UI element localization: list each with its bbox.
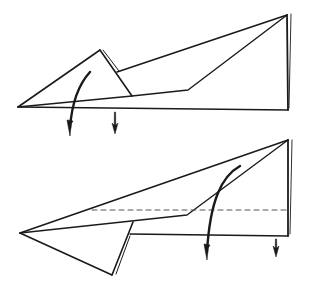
bottom-edge <box>18 107 288 110</box>
straight-down-arrow-icon <box>112 112 118 134</box>
flap-double-edge <box>103 50 119 71</box>
flap-right-edge <box>100 50 132 96</box>
curved-fold-arrow-icon <box>67 72 90 136</box>
flap-right-edge <box>112 222 133 275</box>
right-edge <box>287 15 288 110</box>
right-edge-double <box>289 14 291 108</box>
flap-double-edge <box>116 236 130 274</box>
flap-lower-edge <box>20 233 112 275</box>
fold-step-1 <box>18 14 291 136</box>
straight-down-arrow-icon <box>273 239 279 257</box>
origami-diagram <box>0 0 309 295</box>
right-edge-double <box>290 140 292 234</box>
fold-step-2 <box>20 140 292 275</box>
top-edge <box>117 15 287 72</box>
flap-left-edge <box>18 50 100 107</box>
